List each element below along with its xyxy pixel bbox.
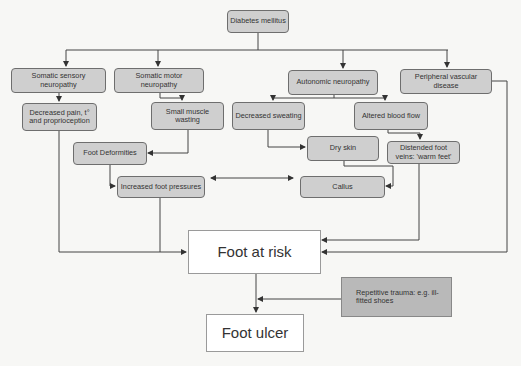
node-decreased-pain: Decreased pain, t° and proprioception <box>22 103 97 131</box>
node-foot-deformities: Foot Deformities <box>73 142 147 165</box>
node-somatic-motor-neuropathy: Somatic motor neuropathy <box>114 68 204 93</box>
node-small-muscle-wasting: Small muscle wasting <box>151 102 224 130</box>
node-repetitive-trauma: Repetitive trauma: e.g. ill-fitted shoes <box>341 277 452 317</box>
node-foot-ulcer: Foot ulcer <box>206 314 304 352</box>
node-diabetes-mellitus: Diabetes mellitus <box>227 10 289 33</box>
node-dry-skin: Dry skin <box>307 136 379 161</box>
node-peripheral-vascular-disease: Peripheral vascular disease <box>400 69 492 94</box>
node-somatic-sensory-neuropathy: Somatic sensory neuropathy <box>11 68 106 93</box>
node-foot-at-risk: Foot at risk <box>188 230 321 274</box>
node-autonomic-neuropathy: Autonomic neuropathy <box>288 70 378 95</box>
node-altered-blood-flow: Altered blood flow <box>354 102 428 130</box>
node-increased-foot-pressures: Increased foot pressures <box>117 176 205 198</box>
node-callus: Callus <box>300 176 385 198</box>
diagram-canvas: Diabetes mellitus Somatic sensory neurop… <box>0 0 521 366</box>
node-decreased-sweating: Decreased sweating <box>232 102 305 130</box>
node-distended-foot-veins: Distended foot veins: 'warm feet' <box>387 141 460 164</box>
